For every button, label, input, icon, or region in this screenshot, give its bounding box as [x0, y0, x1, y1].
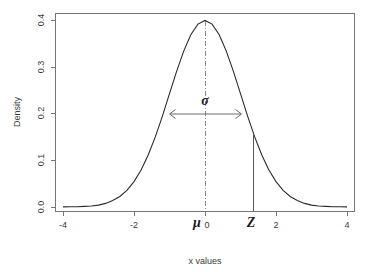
- y-tick-label-2: 0.2: [36, 107, 46, 120]
- sigma-label: σ: [201, 93, 209, 108]
- x-axis-ticks: [64, 212, 348, 216]
- y-tick-label-1: 0.1: [36, 154, 46, 167]
- x-axis-title: x values: [188, 256, 222, 266]
- y-tick-label-3: 0.3: [36, 61, 46, 74]
- chart-page: 0.0 0.1 0.2 0.3 0.4 Density -4 -2 0 2 4 …: [0, 0, 371, 279]
- y-tick-label-4: 0.4: [36, 14, 46, 27]
- x-axis-tick-labels: -4 -2 0 2 4: [59, 220, 350, 230]
- x-tick-label-4: 4: [344, 220, 349, 230]
- y-axis-tick-labels: 0.0 0.1 0.2 0.3 0.4: [36, 14, 46, 214]
- x-tick-label-1: -2: [130, 220, 138, 230]
- z-label: Z: [246, 215, 256, 230]
- x-tick-label-0: -4: [59, 220, 67, 230]
- x-tick-label-3: 2: [273, 220, 278, 230]
- y-tick-label-0: 0.0: [36, 201, 46, 214]
- y-axis-title: Density: [12, 96, 22, 127]
- x-tick-label-2: 0: [204, 220, 209, 230]
- normal-distribution-chart: 0.0 0.1 0.2 0.3 0.4 Density -4 -2 0 2 4 …: [0, 0, 371, 279]
- y-axis-ticks: [51, 21, 55, 208]
- mu-label: μ: [192, 215, 201, 230]
